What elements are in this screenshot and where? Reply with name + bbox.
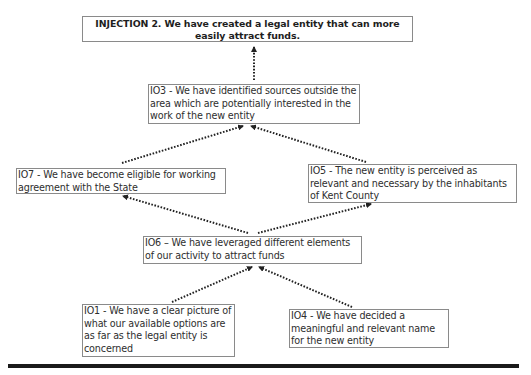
node-io1: IO1 - We have a clear picture of what ou… bbox=[82, 304, 235, 357]
node-io4: IO4 - We have decided a meaningful and r… bbox=[289, 309, 449, 348]
arrow-io1-to-io6 bbox=[172, 267, 252, 302]
arrow-io7-to-io3 bbox=[122, 126, 243, 163]
node-io7: IO7 - We have become eligible for workin… bbox=[16, 168, 226, 194]
node-io6: IO6 – We have leveraged different elemen… bbox=[143, 236, 362, 264]
arrow-io4-to-io6 bbox=[259, 267, 352, 307]
arrow-io6-to-io5 bbox=[258, 204, 371, 233]
node-io3: IO3 - We have identified sources outside… bbox=[148, 84, 360, 124]
node-io5: IO5 - The new entity is perceived as rel… bbox=[308, 164, 517, 203]
arrow-io6-to-io7 bbox=[123, 196, 248, 233]
injection-box: INJECTION 2. We have created a legal ent… bbox=[82, 16, 413, 42]
arrow-io5-to-io3 bbox=[251, 126, 366, 162]
